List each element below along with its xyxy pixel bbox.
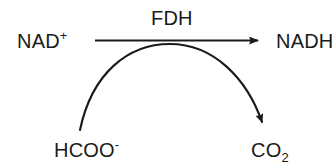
formate-text: HCOO <box>54 139 115 161</box>
reaction-diagram: NAD+ FDH NADH HCOO- CO2 <box>0 0 336 168</box>
co2-count-subscript: 2 <box>281 150 288 165</box>
nad-text: NAD <box>17 30 60 52</box>
substrate-curved-arrow <box>80 44 262 130</box>
formate-charge-superscript: - <box>115 137 120 152</box>
nad-charge-superscript: + <box>60 28 68 43</box>
label-enzyme-fdh: FDH <box>151 8 193 28</box>
label-nadh: NADH <box>276 31 333 51</box>
co2-text: CO <box>251 139 281 161</box>
label-carbon-dioxide: CO2 <box>251 140 289 160</box>
label-formate: HCOO- <box>54 140 119 160</box>
label-nad-plus: NAD+ <box>17 31 68 51</box>
